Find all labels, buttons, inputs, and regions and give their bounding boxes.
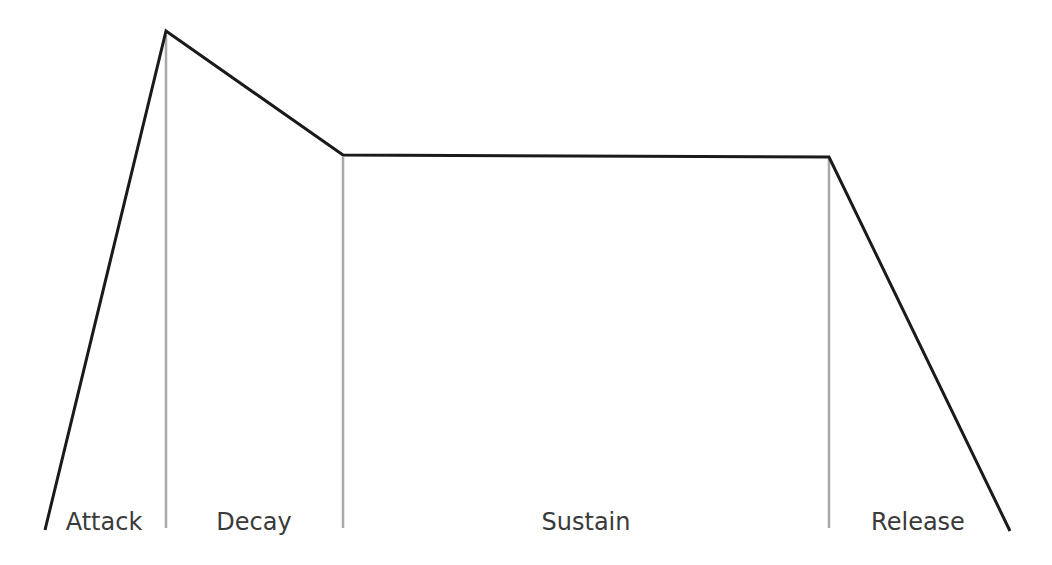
phase-label-decay: Decay (216, 508, 291, 536)
phase-label-sustain: Sustain (542, 508, 631, 536)
phase-label-attack: Attack (66, 508, 143, 536)
adsr-diagram: Attack Decay Sustain Release (0, 0, 1052, 565)
envelope-line (45, 31, 1010, 531)
phase-label-release: Release (871, 508, 965, 536)
